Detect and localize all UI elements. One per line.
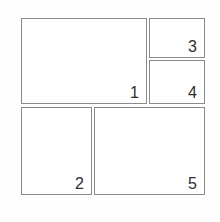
layout-diagram: 1 3 4 2 5 xyxy=(0,0,220,222)
layout-panel-1[interactable]: 1 xyxy=(21,18,147,104)
layout-panel-5[interactable]: 5 xyxy=(94,107,205,195)
panel-label-2: 2 xyxy=(75,176,84,192)
panel-label-5: 5 xyxy=(188,176,197,192)
panel-label-3: 3 xyxy=(188,39,197,55)
layout-panel-4[interactable]: 4 xyxy=(149,60,205,104)
layout-panel-3[interactable]: 3 xyxy=(149,18,205,58)
panel-label-1: 1 xyxy=(130,85,139,101)
panel-label-4: 4 xyxy=(188,85,197,101)
layout-panel-2[interactable]: 2 xyxy=(21,107,92,195)
